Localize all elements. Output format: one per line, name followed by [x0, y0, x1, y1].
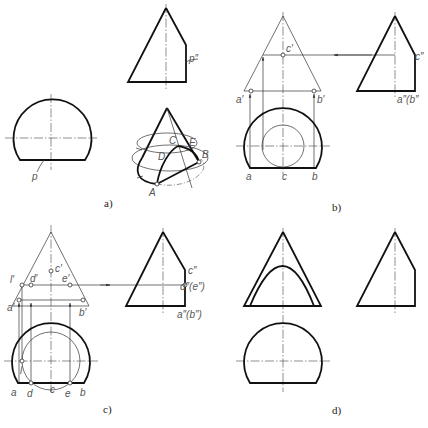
- panel-d: d): [236, 228, 415, 417]
- side-view-a: p″: [128, 4, 199, 90]
- label-p: p: [31, 171, 38, 182]
- label-d-prime: d′: [30, 273, 39, 284]
- panel-b: c′ a′ b′ c″ a″(b″ a c b b): [236, 12, 424, 214]
- label-c-double-prime: c″: [415, 51, 424, 62]
- side-view-c: c″ d″(e″) a″(b″): [126, 228, 205, 320]
- label-p-double-prime: p″: [188, 53, 199, 64]
- iso-cone-a: A B C D E: [132, 108, 209, 198]
- label-E: E: [189, 137, 196, 148]
- side-view-d: [357, 228, 415, 314]
- cone-section-drawing: p″ p A B C D: [0, 0, 428, 428]
- caption-b: b): [332, 201, 342, 214]
- label-B: B: [202, 149, 209, 160]
- panel-a: p″ p A B C D: [5, 4, 209, 210]
- label-c: c: [282, 171, 287, 182]
- caption-d: d): [332, 404, 342, 417]
- top-view-a: p: [5, 94, 97, 182]
- label-e: e: [65, 388, 71, 399]
- label-ab-double-prime: a″(b″): [177, 309, 202, 320]
- front-view-d: [244, 228, 321, 392]
- label-c-prime: c′: [286, 43, 294, 54]
- caption-c: c): [103, 403, 112, 416]
- label-e-prime: e′: [62, 273, 71, 284]
- label-C: C: [169, 135, 177, 146]
- label-a: a: [246, 171, 252, 182]
- label-a-prime: a′: [236, 94, 245, 105]
- label-de-double-prime: d″(e″): [180, 281, 205, 292]
- label-c: c: [50, 384, 55, 395]
- label-l-prime: l′: [10, 274, 15, 285]
- label-a-prime: a′: [7, 302, 16, 313]
- label-b-prime: b′: [317, 94, 326, 105]
- front-view-c: c′ l′ d′ e′ a′ b′: [7, 225, 185, 392]
- caption-a: a): [104, 197, 113, 210]
- label-A: A: [148, 187, 156, 198]
- side-view-b: c″ a″(b″: [357, 12, 424, 105]
- label-b-prime: b′: [79, 307, 88, 318]
- label-b: b: [312, 171, 318, 182]
- label-d: d: [27, 388, 33, 399]
- label-a: a: [11, 387, 17, 398]
- panel-c: c′ l′ d′ e′ a′ b′ c″ d″(e″) a″(b″) l a d: [4, 225, 205, 416]
- label-D: D: [158, 151, 165, 162]
- label-b: b: [80, 387, 86, 398]
- front-view-b: c′ a′ b′: [236, 12, 395, 175]
- label-c-double-prime: c″: [188, 265, 197, 276]
- label-ab-double-prime: a″(b″: [397, 94, 419, 105]
